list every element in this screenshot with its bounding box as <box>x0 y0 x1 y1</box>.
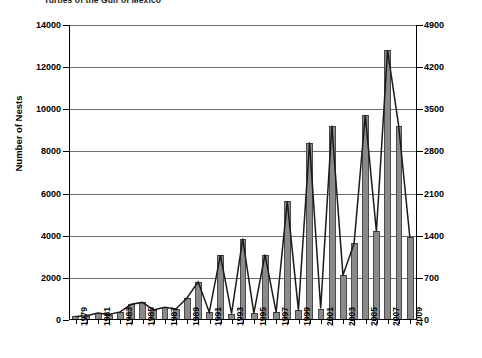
bar <box>251 313 258 319</box>
y-tick-label-left: 14000 <box>36 20 61 30</box>
x-tick-mark <box>321 320 322 324</box>
x-tick-label: 1979 <box>79 307 89 326</box>
bar <box>95 313 102 319</box>
chart-title: Turtles of the Gulf of Mexico <box>44 0 161 5</box>
x-tick-mark <box>98 320 99 324</box>
y-tick-label-left: 10000 <box>36 104 61 114</box>
bar <box>117 312 124 319</box>
x-tick-label: 2003 <box>347 307 357 326</box>
y-tick-label-right: 700 <box>424 273 439 283</box>
bar <box>184 298 191 319</box>
x-tick-label: 1999 <box>302 307 312 326</box>
x-tick-label: 2009 <box>414 307 424 326</box>
bar <box>407 237 414 319</box>
x-tick-mark <box>366 320 367 324</box>
y-tick-label-left: 8000 <box>41 146 61 156</box>
bar <box>340 275 347 319</box>
y-tick-mark-left <box>63 236 69 237</box>
x-tick-mark <box>76 320 77 324</box>
x-tick-mark <box>165 320 166 324</box>
bar <box>373 231 380 319</box>
x-tick-mark <box>276 320 277 324</box>
x-tick-label: 2005 <box>369 307 379 326</box>
y-tick-mark-left <box>63 67 69 68</box>
bar <box>306 143 313 319</box>
y-tick-label-left: 6000 <box>41 189 61 199</box>
x-tick-mark <box>143 320 144 324</box>
bar <box>206 312 213 319</box>
x-tick-label: 1993 <box>235 307 245 326</box>
x-tick-mark <box>120 320 121 324</box>
y-tick-mark-right <box>417 151 423 152</box>
y-tick-label-right: 4900 <box>424 20 444 30</box>
x-tick-label: 2007 <box>391 307 401 326</box>
x-tick-mark <box>410 320 411 324</box>
y-tick-label-right: 3500 <box>424 104 444 114</box>
y-tick-mark-left <box>63 109 69 110</box>
y-tick-label-right: 2100 <box>424 189 444 199</box>
y-axis-left-title: Number of Nests <box>13 69 24 199</box>
x-tick-mark <box>232 320 233 324</box>
x-tick-label: 1997 <box>280 307 290 326</box>
y-tick-mark-right <box>417 278 423 279</box>
bar <box>284 201 291 319</box>
x-tick-mark <box>299 320 300 324</box>
y-tick-label-right: 2800 <box>424 146 444 156</box>
bar-series <box>70 25 415 319</box>
bar <box>329 126 336 319</box>
y-tick-label-right: 0 <box>424 315 429 325</box>
x-tick-label: 2001 <box>325 307 335 326</box>
x-tick-label: 1989 <box>191 307 201 326</box>
y-tick-mark-left <box>63 25 69 26</box>
x-tick-label: 1987 <box>169 307 179 326</box>
x-tick-mark <box>210 320 211 324</box>
x-tick-label: 1983 <box>124 307 134 326</box>
y-tick-mark-right <box>417 194 423 195</box>
y-tick-mark-left <box>63 320 69 321</box>
y-tick-mark-right <box>417 25 423 26</box>
y-tick-label-left: 2000 <box>41 273 61 283</box>
y-tick-mark-right <box>417 236 423 237</box>
y-tick-mark-right <box>417 67 423 68</box>
x-tick-label: 1991 <box>213 307 223 326</box>
x-axis-labels: 1979198119831985198719891991199319951997… <box>70 326 415 358</box>
y-tick-label-right: 1400 <box>424 231 444 241</box>
bar <box>318 309 325 320</box>
y-tick-mark-left <box>63 194 69 195</box>
x-tick-label: 1985 <box>146 307 156 326</box>
bar <box>396 126 403 319</box>
y-tick-label-left: 0 <box>56 315 61 325</box>
y-tick-label-left: 4000 <box>41 231 61 241</box>
y-tick-label-left: 12000 <box>36 62 61 72</box>
y-tick-label-right: 4200 <box>424 62 444 72</box>
bar <box>162 307 169 319</box>
x-tick-mark <box>254 320 255 324</box>
bar <box>362 115 369 319</box>
x-tick-mark <box>343 320 344 324</box>
y-tick-mark-left <box>63 151 69 152</box>
x-tick-label: 1995 <box>258 307 268 326</box>
y-tick-mark-right <box>417 109 423 110</box>
bar <box>384 50 391 319</box>
chart-container: Turtles of the Gulf of Mexico 0200040006… <box>0 0 482 358</box>
x-tick-label: 1981 <box>102 307 112 326</box>
y-tick-mark-left <box>63 278 69 279</box>
x-tick-mark <box>187 320 188 324</box>
x-tick-mark <box>388 320 389 324</box>
bar <box>273 312 280 319</box>
